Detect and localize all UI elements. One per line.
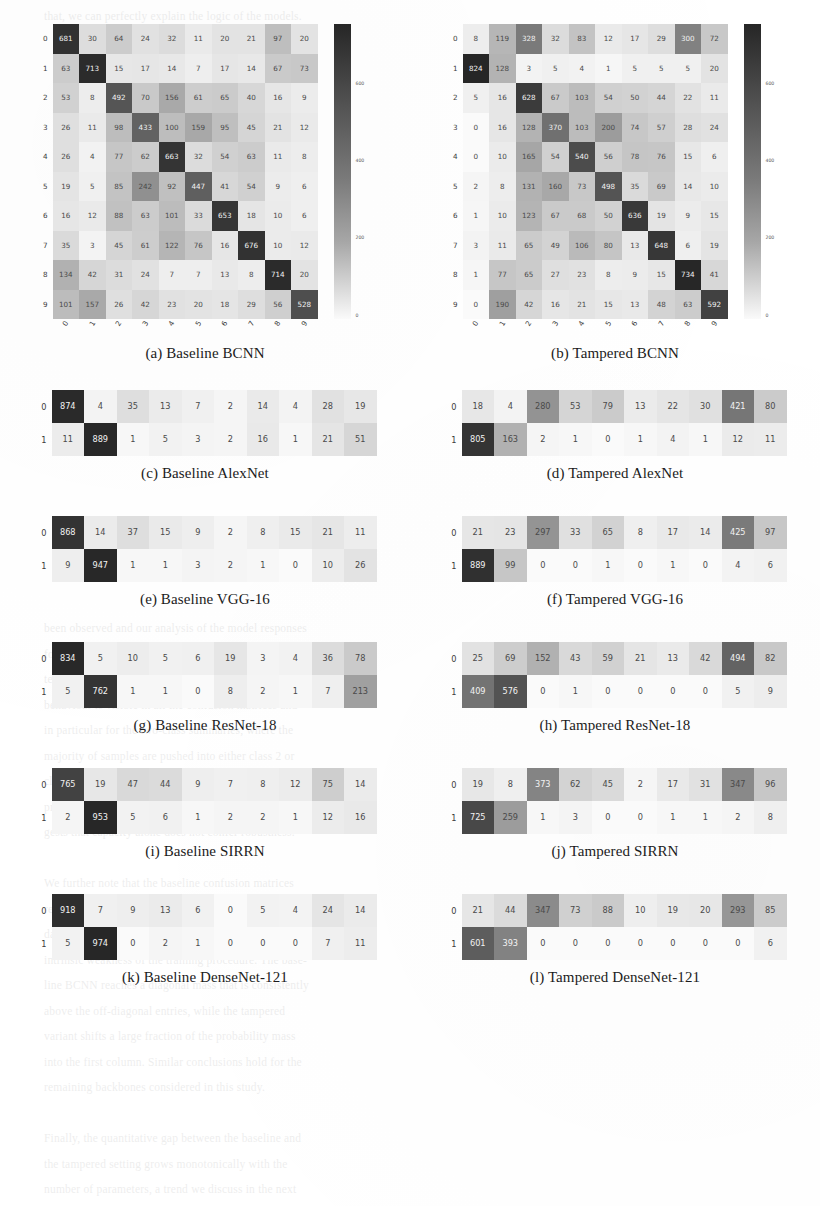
- matrix-cell: 43: [559, 642, 592, 675]
- panel-caption: (h) Tampered ResNet-18: [410, 717, 820, 734]
- matrix-cell: 2: [214, 390, 247, 423]
- matrix-cell: 653: [212, 201, 239, 231]
- matrix-cell: 1: [117, 423, 150, 456]
- matrix-cell: 101: [159, 201, 186, 231]
- matrix-cell: 874: [52, 390, 85, 423]
- matrix-cell: 64: [106, 24, 133, 54]
- matrix-cell: 953: [84, 801, 117, 834]
- matrix-cell: 9: [265, 172, 292, 202]
- matrix-cell: 85: [106, 172, 133, 202]
- matrix-cell: 131: [516, 172, 543, 202]
- matrix-cell: 6: [182, 894, 215, 927]
- panel-caption: (g) Baseline ResNet-18: [0, 717, 410, 734]
- matrix-cell: 8: [247, 768, 280, 801]
- matrix-cell: 165: [516, 142, 543, 172]
- matrix-row: 01612837010320074572824: [463, 113, 728, 143]
- matrix-cell: 96: [754, 768, 787, 801]
- matrix-cell: 61: [185, 83, 212, 113]
- matrix-cell: 16: [212, 231, 239, 261]
- matrix-cell: 65: [516, 231, 543, 261]
- matrix-cell: 17: [622, 24, 649, 54]
- matrix-cell: 30: [689, 390, 722, 423]
- matrix-cell: 540: [569, 142, 596, 172]
- matrix-cell: 97: [754, 516, 787, 549]
- matrix-cell: 10: [265, 231, 292, 261]
- colorbar-ticks: 6004002000: [761, 24, 787, 319]
- matrix-row: 2647762663325463118: [53, 142, 318, 172]
- matrix-cell: 6: [754, 927, 787, 960]
- matrix-cell: 1: [149, 549, 182, 582]
- x-tick-label: 9: [291, 319, 318, 335]
- matrix-cell: 889: [462, 549, 495, 582]
- y-tick-label: 1: [34, 549, 52, 582]
- colorbar-tick-label: 600: [766, 80, 775, 85]
- y-axis-labels: 01: [444, 894, 462, 960]
- matrix-cell: 10: [117, 642, 150, 675]
- matrix-cell: 26: [53, 113, 80, 143]
- matrix-cell: 47: [117, 768, 150, 801]
- matrix-cell: 12: [312, 801, 345, 834]
- matrix-cell: 0: [247, 927, 280, 960]
- matrix-cell: 974: [84, 927, 117, 960]
- matrix-cell: 1: [463, 201, 490, 231]
- x-axis-labels: 0123456789: [53, 319, 318, 335]
- matrix-cell: 28: [675, 113, 702, 143]
- matrix-cell: 92: [159, 172, 186, 202]
- panel-a: 0123456789681306424321120219720637131517…: [0, 24, 410, 362]
- matrix-cell: 0: [624, 801, 657, 834]
- matrix-cell: 15: [595, 290, 622, 320]
- colorbar-tick-label: 400: [356, 157, 365, 162]
- confusion-matrix-a: 0123456789681306424321120219720637131517…: [34, 24, 377, 335]
- matrix-cell: 494: [722, 642, 755, 675]
- matrix-cell: 0: [592, 801, 625, 834]
- x-tick-label: 0: [463, 319, 490, 335]
- matrix-cell: 6: [754, 549, 787, 582]
- matrix-cell: 5: [622, 54, 649, 84]
- matrix-cell: 14: [675, 172, 702, 202]
- matrix-cell: 1: [559, 423, 592, 456]
- matrix-row: 868143715928152111: [52, 516, 377, 549]
- matrix-cell: 98: [106, 113, 133, 143]
- matrix-cell: 22: [657, 390, 690, 423]
- matrix-cell: 53: [53, 83, 80, 113]
- matrix-cell: 11: [79, 113, 106, 143]
- matrix-cell: 5: [149, 642, 182, 675]
- matrix-cell: 23: [569, 260, 596, 290]
- confusion-matrix-d: 011842805379132230421808051632101411211: [444, 390, 787, 456]
- matrix-cell: 9: [117, 894, 150, 927]
- matrix-cell: 42: [516, 290, 543, 320]
- matrix-cell: 5: [463, 83, 490, 113]
- matrix-cell: 8: [79, 83, 106, 113]
- matrix-cell: 20: [185, 290, 212, 320]
- y-axis-labels: 01: [34, 894, 52, 960]
- panel-plot: 012123297336581714425978899900101046: [410, 516, 820, 582]
- y-axis-labels: 01: [444, 642, 462, 708]
- matrix-cell: 100: [159, 113, 186, 143]
- matrix-cell: 14: [344, 768, 377, 801]
- matrix-cell: 15: [149, 516, 182, 549]
- matrix-cell: 19: [657, 894, 690, 927]
- matrix-cell: 103: [569, 113, 596, 143]
- matrix-cell: 14: [247, 390, 280, 423]
- panel-caption: (j) Tampered SIRRN: [410, 843, 820, 860]
- matrix-cell: 19: [701, 231, 728, 261]
- matrix-cell: 0: [624, 927, 657, 960]
- matrix-cell: 0: [527, 675, 560, 708]
- matrix-cell: 63: [238, 142, 265, 172]
- matrix-cell: 19: [214, 642, 247, 675]
- matrix-cell: 8: [247, 516, 280, 549]
- matrix-cell: 13: [212, 260, 239, 290]
- matrix-cell: 2: [149, 927, 182, 960]
- y-axis-labels: 01: [444, 516, 462, 582]
- matrix-cell: 45: [592, 768, 625, 801]
- matrix-cell: 5: [247, 894, 280, 927]
- x-tick-label: 8: [675, 319, 702, 335]
- matrix-cell: 67: [542, 201, 569, 231]
- figure-row-5: 0176519474497812751429535612211216(i) Ba…: [0, 768, 820, 860]
- y-tick-label: 4: [34, 142, 53, 172]
- panel-plot: 011842805379132230421808051632101411211: [410, 390, 820, 456]
- matrix-cell: 10: [489, 201, 516, 231]
- matrix-cell: 6: [182, 642, 215, 675]
- x-tick-label: 4: [569, 319, 596, 335]
- matrix-cell: 17: [657, 516, 690, 549]
